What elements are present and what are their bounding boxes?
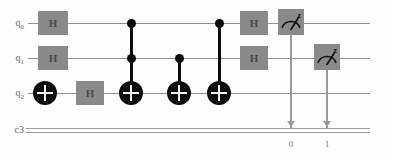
- cnot-control-q1[interactable]: [175, 54, 184, 63]
- measure-drop-line-q1: [326, 70, 328, 128]
- wire-c3-lower: [26, 132, 370, 133]
- toffoli-control-q1[interactable]: [127, 54, 136, 63]
- quantum-circuit-diagram: q0 q1 q2 c3 H H H H H z: [0, 0, 393, 162]
- toffoli-target-q2[interactable]: [119, 81, 143, 105]
- measure-arrowhead-q1: [323, 121, 331, 127]
- hadamard-gate-q1-2[interactable]: H: [240, 46, 268, 70]
- toffoli-control-q0[interactable]: [127, 19, 136, 28]
- register-label-q2: q2: [10, 88, 24, 102]
- cnot-target-q2-from-q0[interactable]: [207, 81, 231, 105]
- classical-bit-index-0: 0: [284, 140, 298, 149]
- measure-gate-q1[interactable]: z: [314, 44, 340, 70]
- measure-gate-q0[interactable]: z: [278, 9, 304, 35]
- hadamard-gate-q1-1[interactable]: H: [38, 46, 68, 70]
- wire-q0: [28, 23, 370, 24]
- svg-text:z: z: [298, 11, 302, 20]
- hadamard-gate-q0-2[interactable]: H: [240, 11, 268, 35]
- wire-c3-upper: [26, 128, 370, 129]
- svg-text:z: z: [334, 46, 338, 55]
- pauli-x-gate-q2[interactable]: [33, 81, 57, 105]
- measure-arrowhead-q0: [287, 121, 295, 127]
- register-label-q0: q0: [10, 18, 24, 32]
- register-label-q1: q1: [10, 53, 24, 67]
- register-label-c3: c3: [8, 125, 24, 135]
- classical-bit-index-1: 1: [320, 140, 334, 149]
- cnot-control-q0[interactable]: [215, 19, 224, 28]
- cnot-target-q2-from-q1[interactable]: [167, 81, 191, 105]
- measure-drop-line-q0: [290, 35, 292, 128]
- hadamard-gate-q2[interactable]: H: [76, 81, 104, 105]
- hadamard-gate-q0-1[interactable]: H: [38, 11, 68, 35]
